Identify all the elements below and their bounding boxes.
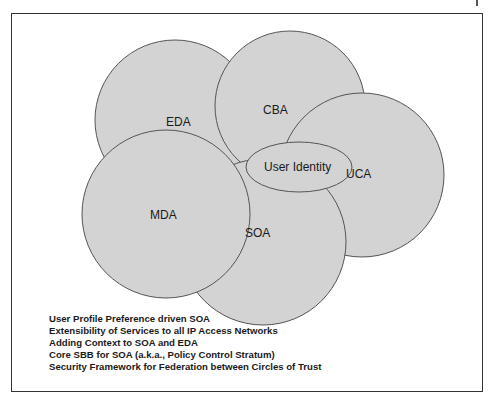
note-item: User Profile Preference driven SOA: [49, 313, 321, 325]
note-item: Adding Context to SOA and EDA: [49, 337, 321, 349]
label-user-identity: User Identity: [264, 160, 331, 174]
note-item: Security Framework for Federation betwee…: [49, 361, 321, 373]
note-item: Core SBB for SOA (a.k.a., Policy Control…: [49, 349, 321, 361]
label-mda: MDA: [150, 208, 177, 222]
label-cba: CBA: [263, 103, 288, 117]
notes-list: User Profile Preference driven SOA Exten…: [49, 313, 321, 373]
note-item: Extensibility of Services to all IP Acce…: [49, 325, 321, 337]
label-uca: UCA: [346, 167, 371, 181]
label-eda: EDA: [166, 115, 191, 129]
label-soa: SOA: [245, 226, 270, 240]
